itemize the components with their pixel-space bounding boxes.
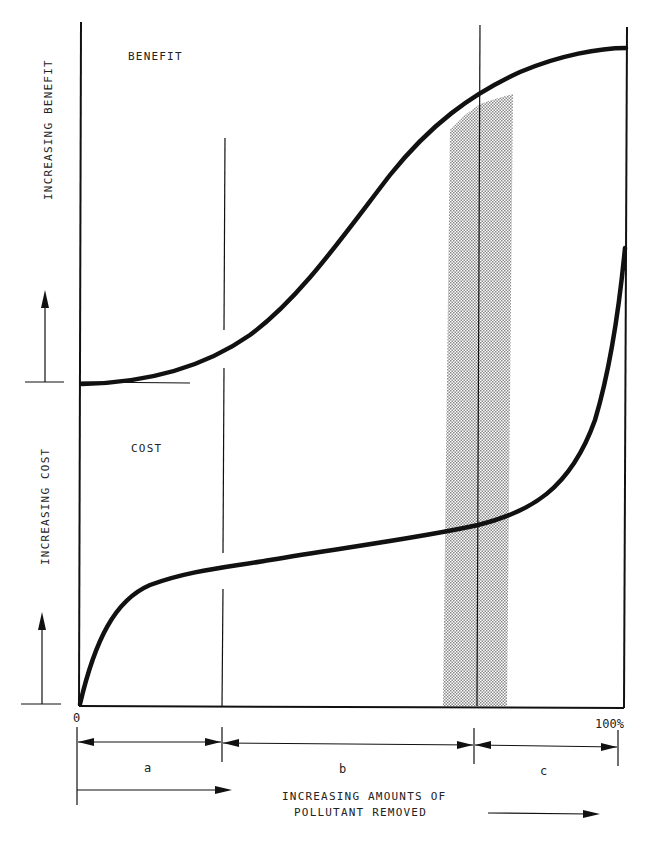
up-arrow-benefit-icon [25, 290, 64, 382]
x-axis-label-line2: POLLUTANT REMOVED [294, 806, 427, 819]
x-axis-label-line1: INCREASING AMOUNTS OF [282, 790, 446, 803]
cost-curve [80, 248, 625, 704]
x-max-label: 100% [595, 717, 625, 731]
cost-region-label: COST [131, 442, 162, 455]
right-boundary-line [624, 27, 627, 708]
y-axis [79, 22, 81, 706]
benefit-region-label: BENEFIT [128, 50, 183, 63]
cost-benefit-diagram: BENEFIT COST INCREASING BENEFIT INCREASI… [0, 0, 647, 846]
y-axis-upper-label: INCREASING BENEFIT [42, 59, 55, 200]
up-arrow-cost-icon [21, 612, 61, 704]
segment-a-label: a [144, 761, 151, 775]
x-axis [79, 706, 624, 708]
y-axis-lower-label: INCREASING COST [39, 448, 52, 565]
segment-b-label: b [339, 762, 346, 776]
benefit-curve [82, 48, 626, 384]
marker-line-ab [222, 138, 225, 706]
segment-c-label: c [540, 764, 547, 778]
right-arrow-lower-right-icon [488, 810, 600, 818]
right-arrow-lower-left-icon [77, 786, 232, 794]
x-min-label: 0 [73, 711, 80, 725]
